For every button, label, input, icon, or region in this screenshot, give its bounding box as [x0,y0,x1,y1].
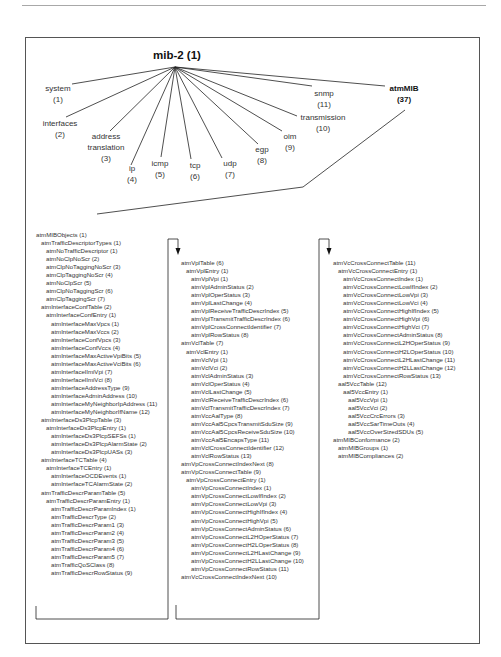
mib-object-item: atmTrafficDescrParam1 (3) [36,521,157,529]
node-number: (2) [38,129,82,140]
mib-object-item: atmVclOperStatus (4) [181,380,304,388]
mib-object-item: atmTrafficDescrType (2) [36,513,157,521]
mib-object-item: atmInterfaceTCAlarmState (2) [36,480,157,488]
mib-object-item: atmVcCrossConnectH2LOperStatus (10) [333,348,455,356]
mib-object-item: atmVclTable (7) [181,339,304,347]
mib-object-item: atmInterfaceMyNeighborIpAddress (11) [36,400,157,408]
mib-object-item: atmVcCrossConnectRowStatus (13) [333,372,455,380]
mib-object-item: atmMIBGroups (1) [333,444,455,452]
node-label: udp [219,158,241,169]
mib-object-item: atmVccAal5EncapsType (11) [181,436,304,444]
mib-object-item: atmNoClpNoScr (2) [36,255,157,263]
mib-object-item: atmVpCrossConnectHighVpi (5) [181,517,304,525]
mib-object-item: atmVccAal5CpcsReceiveSduSize (10) [181,428,304,436]
mib-object-item: atmVplReceiveTrafficDescrIndex (5) [181,307,304,315]
mib-object-item: atmTrafficDescrParam5 (7) [36,553,157,561]
mib-object-item: atmVcCrossConnectLowIfIndex (2) [333,283,455,291]
mib-object-item: atmInterfaceMyNeighborIfName (12) [36,408,157,416]
mib-object-item: atmInterfaceDs3PlcpTable (3) [36,416,157,424]
mib-object-item: atmInterfaceConfVccs (4) [36,344,157,352]
mib-object-item: atmVplTransmitTrafficDescrIndex (6) [181,315,304,323]
mib-object-item: aal5VccVci (2) [333,404,455,412]
node-label: interfaces [38,118,82,129]
root-node-mib-2: mib-2 (1) [153,49,201,61]
mib-object-item: atmTrafficDescrParam2 (4) [36,529,157,537]
mib-object-item: atmVclLastChange (5) [181,388,304,396]
mib-object-item: atmTrafficDescrParam4 (6) [36,545,157,553]
mib-object-item: atmVpCrossConnectRowStatus (11) [181,565,304,573]
mib-object-item: atmVcCrossConnectHighIfIndex (5) [333,307,455,315]
mib-column-2: atmVplTable (6)atmVplEntry (1)atmVplVpi … [181,259,304,581]
node-number: (1) [43,94,73,105]
mib-object-item: atmVcCrossConnectL2HOperStatus (9) [333,339,455,347]
mib-object-item: atmVpCrossConnectAdminStatus (6) [181,525,304,533]
mib-object-item: atmInterfaceOCDEvents (1) [36,472,157,480]
mib-object-item: atmTrafficDescrParamEntry (1) [36,497,157,505]
mib-object-item: atmVplEntry (1) [181,267,304,275]
node-number: (6) [184,171,206,182]
mib-object-item: atmVcCrossConnectH2LLastChange (12) [333,364,455,372]
mib-object-item: atmClpNoTaggingNoScr (3) [36,263,157,271]
mib-object-item: atmVpCrossConnectL2HLastChange (9) [181,549,304,557]
mib-object-item: aal5VccSarTimeOuts (4) [333,420,455,428]
mib-object-item: atmVplVpi (1) [181,275,304,283]
node-label: address [84,131,128,142]
node-number: (10) [298,123,348,134]
mib-object-item: atmVcCrossConnectEntry (1) [333,267,455,275]
mib-object-item: atmVpCrossConnectH2LLastChange (10) [181,557,304,565]
node-oim: oim (9) [279,131,301,153]
mib-object-item: atmMIBConformance (2) [333,436,455,444]
node-atmMIB: atmMIB (37) [384,83,424,105]
mib-object-item: atmClpNoTaggingScr (6) [36,287,157,295]
mib-object-item: atmVpCrossConnectEntry (1) [181,476,304,484]
mib-object-item: atmVcCrossConnectIndex (1) [333,275,455,283]
mib-object-item: atmInterfaceDs3PlcpUASs (3) [36,448,157,456]
node-label: egp [251,144,273,155]
mib-object-item: atmVclVpi (1) [181,356,304,364]
node-label: ip [122,163,142,174]
mib-object-item: atmVclRowStatus (13) [181,452,304,460]
mib-object-item: atmMIBCompliances (2) [333,452,455,460]
node-number: (8) [251,155,273,166]
mib-object-item: atmInterfaceMaxActiveVpiBits (5) [36,352,157,360]
mib-object-item: atmVcCrossConnectHighVci (7) [333,323,455,331]
node-address-translation: address translation (3) [84,131,128,164]
mib-object-item: atmInterfaceAddressType (9) [36,384,157,392]
node-icmp: icmp (5) [148,158,172,180]
node-number: (37) [384,94,424,105]
node-egp: egp (8) [251,144,273,166]
node-label: system [43,83,73,94]
node-label: translation [84,142,128,153]
mib-object-item: atmVcCrossConnectTable (11) [333,259,455,267]
mib-object-item: atmInterfaceDs3PlcpEntry (1) [36,424,157,432]
mib-object-item: atmVccAal5CpcsTransmitSduSize (9) [181,420,304,428]
node-number: (11) [309,99,339,110]
mib-object-item: atmVclCrossConnectIdentifier (12) [181,444,304,452]
mib-object-item: atmInterfaceIlmiVpi (7) [36,368,157,376]
node-snmp: snmp (11) [309,88,339,110]
node-udp: udp (7) [219,158,241,180]
mib-object-item: atmVplRowStatus (8) [181,331,304,339]
mib-object-item: atmInterfaceDs3PlcpSEFSs (1) [36,432,157,440]
mib-object-item: atmTrafficDescrRowStatus (9) [36,569,157,577]
node-system: system (1) [43,83,73,105]
mib-object-item: atmVccAalType (8) [181,412,304,420]
mib-object-item: atmVpCrossConnectLowVpi (3) [181,500,304,508]
mib-object-item: atmVpCrossConnectIndex (1) [181,484,304,492]
mib-object-item: atmVcCrossConnectAdminStatus (8) [333,331,455,339]
mib-object-item: atmClpTaggingNoScr (4) [36,271,157,279]
node-label: transmission [298,112,348,123]
mib-column-3: atmVcCrossConnectTable (11)atmVcCrossCon… [333,259,455,460]
mib-object-item: atmNoTrafficDescriptor (1) [36,247,157,255]
node-label: atmMIB [384,83,424,94]
mib-object-item: atmVpCrossConnectLowIfIndex (2) [181,492,304,500]
mib-object-item: atmInterfaceIlmiVci (8) [36,376,157,384]
node-label: icmp [148,158,172,169]
mib-object-item: atmVclVci (2) [181,364,304,372]
mib-object-item: aal5VccEntry (1) [333,388,455,396]
mib-object-item: atmVcCrossConnectLowVpi (3) [333,291,455,299]
mib-object-item: atmInterfaceTCEntry (1) [36,464,157,472]
mib-object-item: aal5VccVpi (1) [333,396,455,404]
mib-object-item: atmTrafficDescriptorTypes (1) [36,239,157,247]
mib-object-item: atmInterfaceMaxActiveVciBits (6) [36,360,157,368]
